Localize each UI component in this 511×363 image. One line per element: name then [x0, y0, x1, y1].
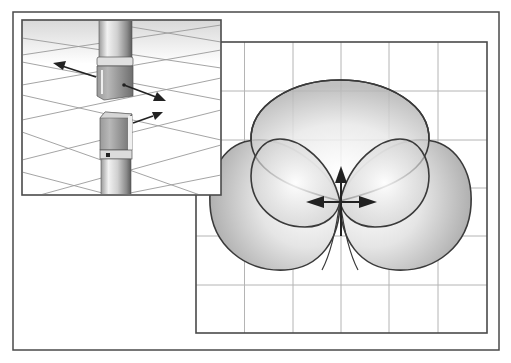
polar-plot — [196, 42, 487, 333]
diagram-figure — [0, 0, 511, 363]
microphone-lower-body — [100, 112, 132, 199]
polar-pattern-diagram — [0, 0, 511, 363]
microphone-inset — [22, 18, 221, 199]
microphone-upper-body — [97, 18, 133, 100]
